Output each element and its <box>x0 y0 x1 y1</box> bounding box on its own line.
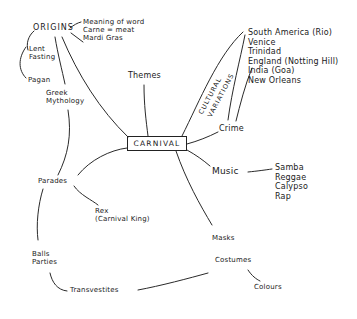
music-subitems: Samba Reggae Calypso Rap <box>275 163 308 201</box>
link-origins-mardi <box>71 33 83 42</box>
node-transvestites: Transvestites <box>70 286 119 294</box>
link-carnival-masks <box>176 151 212 225</box>
node-balls: Balls <box>32 250 57 258</box>
link-music-samba <box>248 169 272 172</box>
node-greek: Greek <box>46 89 84 97</box>
link-transvestites-costumes <box>138 273 208 290</box>
node-themes: Themes <box>128 71 161 81</box>
link-costumes-colours <box>248 270 260 281</box>
node-meaning-of-word: Meaning of word <box>83 18 144 26</box>
link-balls-transvestites <box>50 273 67 291</box>
link-parades-balls <box>37 189 43 240</box>
link-parades-rex <box>74 186 98 205</box>
node-samba: Samba <box>275 163 308 173</box>
node-crime: Crime <box>219 124 244 134</box>
node-rap: Rap <box>275 192 308 202</box>
link-carnival-parades <box>78 148 127 175</box>
node-masks: Masks <box>212 234 235 242</box>
link-origins-greek <box>55 37 65 84</box>
node-places: South America (Rio) Venice Trinidad Engl… <box>248 28 338 85</box>
node-parties: Parties <box>32 258 57 266</box>
link-themes-carnival <box>144 85 148 136</box>
link-origins-carnival <box>62 37 128 137</box>
link-crime-carnival <box>187 132 218 144</box>
center-node-carnival: CARNIVAL <box>127 136 187 151</box>
node-trinidad: Trinidad <box>248 47 338 57</box>
node-reggae: Reggae <box>275 173 308 183</box>
node-origins: ORIGINS <box>33 23 74 33</box>
link-greek-parades <box>58 110 70 175</box>
node-balls-parties: Balls Parties <box>32 250 57 266</box>
link-origins-pagan <box>20 47 26 78</box>
node-england: England (Notting Hill) <box>248 57 338 67</box>
node-parades: Parades <box>38 177 67 185</box>
node-costumes: Costumes <box>215 256 251 264</box>
node-colours: Colours <box>254 283 282 291</box>
node-carnival-king: (Carnival King) <box>95 215 150 223</box>
node-mythology: Mythology <box>46 97 84 105</box>
node-mardi-gras: Mardi Gras <box>83 34 144 42</box>
node-india: India (Goa) <box>248 66 338 76</box>
node-rex: Rex (Carnival King) <box>95 207 150 223</box>
node-music: Music <box>212 167 239 177</box>
node-venice: Venice <box>248 38 338 48</box>
node-lent-fasting: Lent Fasting <box>29 45 55 61</box>
node-lent: Lent <box>29 45 55 53</box>
node-rex-label: Rex <box>95 207 150 215</box>
node-carne-meat: Carne = meat <box>83 26 144 34</box>
node-new-orleans: New Orleans <box>248 76 338 86</box>
node-fasting: Fasting <box>29 53 55 61</box>
node-greek-mythology: Greek Mythology <box>46 89 84 105</box>
node-calypso: Calypso <box>275 182 308 192</box>
origins-subitems: Meaning of word Carne = meat Mardi Gras <box>83 18 144 42</box>
node-pagan: Pagan <box>28 76 50 84</box>
link-carnival-music <box>187 150 210 166</box>
node-south-america: South America (Rio) <box>248 28 338 38</box>
